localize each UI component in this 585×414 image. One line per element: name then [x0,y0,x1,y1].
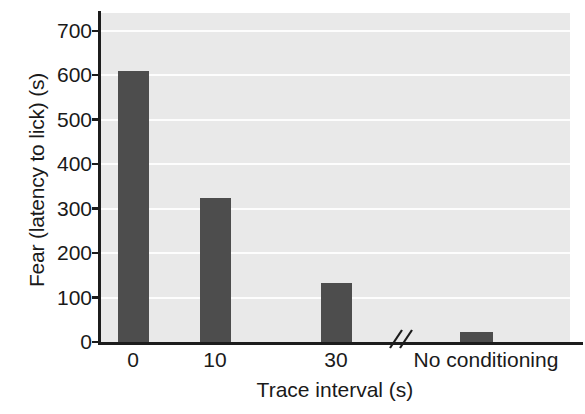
y-tick-mark [92,30,101,33]
gridline [100,74,570,76]
bar [200,198,231,342]
y-tick-label: 200 [40,242,92,263]
x-tick-label: No conditioning [366,348,585,371]
y-tick-mark [92,118,101,121]
y-tick-mark [92,207,101,210]
bar [460,332,493,342]
y-tick-mark [92,341,101,344]
y-tick-mark [92,163,101,166]
bar-chart-figure: Fear (latency to lick) (s) 0100200300400… [0,0,585,414]
x-axis-title: Trace interval (s) [100,378,570,402]
y-tick-label: 300 [40,198,92,219]
y-tick-label: 700 [40,20,92,41]
y-tick-label: 600 [40,64,92,85]
bar [321,283,352,342]
y-tick-label: 100 [40,287,92,308]
y-tick-mark [92,252,101,255]
gridline [100,208,570,210]
gridline [100,163,570,165]
y-tick-label: 400 [40,153,92,174]
gridline [100,252,570,254]
y-axis-line [98,11,101,344]
y-tick-mark [92,296,101,299]
y-tick-mark [92,74,101,77]
y-tick-label: 500 [40,109,92,130]
plot-area [100,13,570,342]
x-axis-line [98,342,583,345]
gridline [100,30,570,32]
gridline [100,119,570,121]
bar [118,71,149,342]
